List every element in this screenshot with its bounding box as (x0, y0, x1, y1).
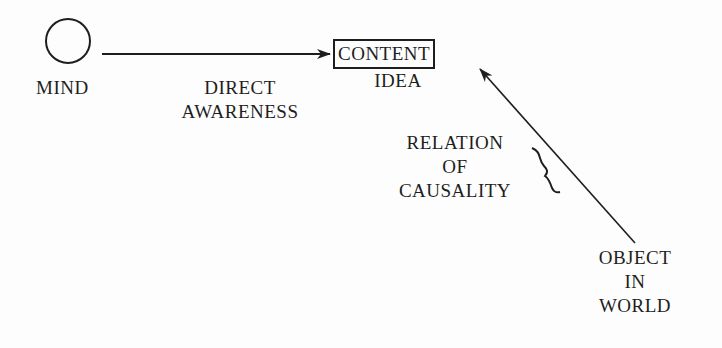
idea-label: IDEA (340, 69, 456, 93)
object-line-2: IN (573, 270, 697, 294)
direct-awareness-label: DIRECT AWARENESS (150, 76, 330, 124)
mind-circle (46, 19, 90, 63)
object-line-3: WORLD (573, 294, 697, 318)
relation-of-causality-label: RELATION OF CAUSALITY (380, 131, 530, 203)
object-line-1: OBJECT (573, 246, 697, 270)
direct-awareness-line-2: AWARENESS (150, 100, 330, 124)
object-in-world-label: OBJECT IN WORLD (573, 246, 697, 318)
relation-line-1: RELATION (380, 131, 530, 155)
relation-line-2: OF (380, 155, 530, 179)
content-box: CONTENT (333, 39, 435, 69)
direct-awareness-line-1: DIRECT (150, 76, 330, 100)
mind-label: MIND (36, 76, 89, 100)
relation-line-3: CAUSALITY (380, 179, 530, 203)
